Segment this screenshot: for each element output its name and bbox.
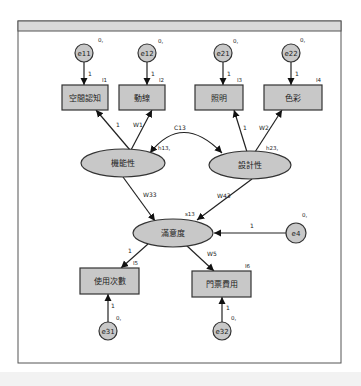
observed-variable-tag: I5 [133, 260, 139, 266]
path-coefficient-label: 1 [226, 304, 230, 311]
covariance-label: C13 [174, 124, 186, 131]
latent-factor-tag: s13 [185, 211, 195, 217]
error-term-label: e31 [101, 328, 114, 336]
frame-border [18, 21, 341, 363]
error-variance-label: 0, [231, 315, 236, 321]
sem-diagram: 11111W11W2W33W4311W511C13空間認知I1動線I2照明I3色… [0, 0, 361, 386]
latent-factor-label: 滿意度 [161, 228, 185, 238]
error-variance-label: 0, [116, 315, 121, 321]
observed-variable-label: 動線 [134, 93, 150, 103]
path-coefficient-label: 1 [88, 70, 92, 77]
error-variance-label: 0, [158, 38, 163, 44]
error-term-label: e11 [77, 50, 90, 58]
path-coefficient-label: W1 [133, 121, 143, 128]
path-coefficient-label: 1 [128, 247, 132, 254]
path-coefficient-label: 1 [243, 124, 247, 131]
path-coefficient-label: W5 [207, 250, 217, 257]
observed-variable-tag: I2 [159, 77, 164, 83]
path-coefficient-label: 1 [151, 70, 155, 77]
observed-variable-tag: I4 [316, 77, 322, 83]
error-variance-label: 0, [98, 37, 103, 43]
path-coefficient-label: 1 [111, 302, 115, 309]
observed-variable-tag: I3 [237, 77, 243, 83]
error-term-label: e32 [215, 328, 228, 336]
path-coefficient-label: W43 [217, 192, 231, 199]
latent-factor-label: 設計性 [238, 160, 262, 170]
latent-factor-tag: h23, [266, 145, 278, 151]
path-coefficient-label: W2 [259, 124, 269, 131]
observed-variable-label: 門票費用 [206, 279, 238, 289]
observed-variable-label: 空間認知 [69, 93, 101, 103]
observed-variable-tag: I1 [102, 77, 107, 83]
path-coefficient-label: 1 [116, 121, 120, 128]
observed-variable-label: 使用次數 [94, 276, 126, 286]
path-coefficient-label: 1 [250, 222, 254, 229]
error-variance-label: 0, [300, 37, 305, 43]
latent-factor-label: 機能性 [111, 158, 135, 168]
path-coefficient-label: 1 [295, 70, 299, 77]
latent-factor-tag: h13, [158, 145, 170, 151]
observed-variable-tag: I6 [245, 263, 251, 269]
error-term-label: e22 [284, 50, 297, 58]
error-term-label: e12 [140, 50, 153, 58]
diagram-frame [18, 21, 341, 363]
error-variance-label: 0, [233, 38, 238, 44]
error-variance-label: 0, [302, 212, 307, 218]
observed-variable-label: 照明 [211, 94, 227, 103]
path-coefficient-label: 1 [227, 70, 231, 77]
path-coefficient-label: W33 [143, 191, 157, 198]
frame-header-bar [18, 21, 341, 31]
error-term-label: e4 [292, 230, 301, 238]
observed-variable-label: 色彩 [285, 93, 301, 103]
error-term-label: e21 [216, 50, 229, 58]
